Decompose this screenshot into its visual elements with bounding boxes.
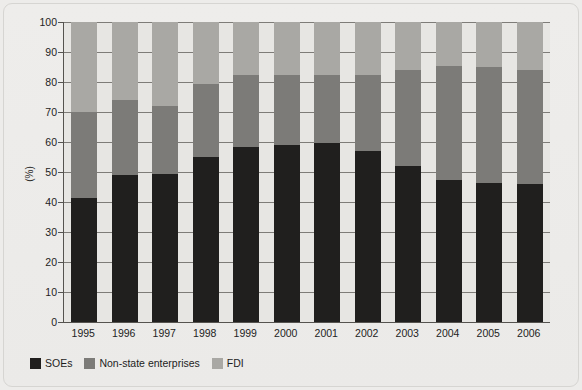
bar-segment-fdi (517, 22, 543, 70)
bar-segment-fdi (355, 22, 381, 75)
bar-group (274, 22, 300, 322)
x-axis-tick-label: 2006 (505, 328, 553, 339)
bar-segment-soes (274, 145, 300, 322)
bar-segment-fdi (395, 22, 421, 70)
bar-group (436, 22, 462, 322)
bar-segment-fdi (476, 22, 502, 67)
y-axis-tick-label: 50 (31, 167, 57, 178)
bar-segment-non-state-enterprises (233, 75, 259, 147)
y-axis-tickmark (58, 322, 63, 323)
bar-segment-fdi (436, 22, 462, 66)
legend-swatch-icon (84, 358, 95, 369)
bar-group (517, 22, 543, 322)
bar-group (71, 22, 97, 322)
bar-segment-soes (517, 184, 543, 322)
bar-segment-soes (193, 157, 219, 322)
bar-segment-fdi (274, 22, 300, 75)
bar-segment-soes (152, 174, 178, 323)
bar-group (395, 22, 421, 322)
x-axis-tick-labels: 1995199619971998199920002001200220032004… (63, 328, 549, 344)
y-axis-tick-label: 80 (31, 77, 57, 88)
legend-label: FDI (227, 358, 244, 369)
chart-figure: (%) 0102030405060708090100 1995199619971… (0, 0, 582, 390)
bar-group (112, 22, 138, 322)
y-axis-tickmark (58, 112, 63, 113)
bar-segment-soes (71, 198, 97, 323)
bar-segment-non-state-enterprises (274, 75, 300, 146)
chart-legend: SOEsNon-state enterprisesFDI (30, 358, 251, 369)
bar-segment-soes (355, 151, 381, 322)
bar-segment-fdi (71, 22, 97, 112)
y-axis-tickmark (58, 292, 63, 293)
bar-series-container (64, 22, 550, 322)
bar-segment-non-state-enterprises (436, 66, 462, 180)
y-axis-tick-label: 0 (31, 317, 57, 328)
legend-swatch-icon (212, 358, 223, 369)
legend-label: Non-state enterprises (99, 358, 199, 369)
bar-segment-non-state-enterprises (193, 84, 219, 158)
bar-segment-fdi (314, 22, 340, 75)
y-axis-tick-label: 20 (31, 257, 57, 268)
bar-segment-non-state-enterprises (152, 106, 178, 174)
bar-segment-non-state-enterprises (476, 67, 502, 183)
bar-segment-non-state-enterprises (395, 70, 421, 166)
legend-item[interactable]: Non-state enterprises (84, 358, 199, 369)
y-axis-tick-label: 90 (31, 47, 57, 58)
legend-label: SOEs (45, 358, 72, 369)
bar-segment-soes (233, 147, 259, 323)
y-axis-tickmark (58, 82, 63, 83)
bar-segment-fdi (233, 22, 259, 75)
y-axis-tick-label: 70 (31, 107, 57, 118)
y-axis-tickmark (58, 172, 63, 173)
legend-item[interactable]: FDI (212, 358, 244, 369)
y-axis-tickmark (58, 22, 63, 23)
bar-segment-non-state-enterprises (355, 75, 381, 152)
bar-group (233, 22, 259, 322)
legend-swatch-icon (30, 358, 41, 369)
legend-item[interactable]: SOEs (30, 358, 72, 369)
y-axis-tick-label: 10 (31, 287, 57, 298)
bar-segment-non-state-enterprises (71, 112, 97, 198)
y-axis-tickmark (58, 202, 63, 203)
bar-group (314, 22, 340, 322)
y-axis-tick-label: 60 (31, 137, 57, 148)
y-axis-tick-label: 100 (31, 17, 57, 28)
bar-segment-non-state-enterprises (314, 75, 340, 143)
bar-segment-soes (112, 175, 138, 322)
bar-segment-fdi (193, 22, 219, 84)
bar-group (152, 22, 178, 322)
y-axis-tick-label: 40 (31, 197, 57, 208)
bar-segment-fdi (112, 22, 138, 100)
y-axis-tickmark (58, 52, 63, 53)
bar-segment-non-state-enterprises (517, 70, 543, 184)
bar-segment-soes (395, 166, 421, 322)
bar-segment-non-state-enterprises (112, 100, 138, 175)
bar-group (355, 22, 381, 322)
bar-group (476, 22, 502, 322)
bar-segment-soes (436, 180, 462, 323)
y-axis-tick-label: 30 (31, 227, 57, 238)
y-axis-tickmark (58, 232, 63, 233)
bar-segment-fdi (152, 22, 178, 106)
bar-segment-soes (476, 183, 502, 323)
bar-group (193, 22, 219, 322)
bar-segment-soes (314, 143, 340, 322)
y-axis-tickmark (58, 262, 63, 263)
y-axis-tick-labels: 0102030405060708090100 (27, 22, 57, 322)
y-axis-tickmark (58, 142, 63, 143)
plot-area (63, 22, 550, 323)
